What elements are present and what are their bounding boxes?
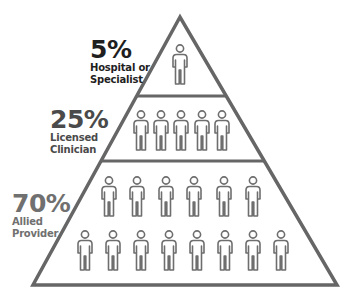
tier-percent: 25%: [50, 108, 108, 132]
tier-description-line2: Provider: [12, 228, 70, 240]
tier-label-allied-provider: 70% Allied Provider: [12, 192, 70, 240]
tier-description-line1: Hospital or: [90, 62, 150, 74]
tier-label-licensed-clinician: 25% Licensed Clinician: [50, 108, 108, 156]
tier-description-line2: Specialist: [90, 74, 150, 86]
tier-label-hospital-specialist: 5% Hospital or Specialist: [90, 38, 150, 86]
tier-percent: 70%: [12, 192, 70, 216]
tier-description-line2: Clinician: [50, 144, 108, 156]
tier-percent: 5%: [90, 38, 150, 62]
